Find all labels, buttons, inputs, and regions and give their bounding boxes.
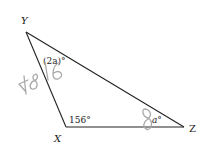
triangle-diagram: Y X Z (2a)° 156° a° — [0, 0, 210, 150]
vertex-x-label: X — [53, 133, 62, 144]
handwritten-8 — [143, 109, 152, 130]
angle-y-label: (2a)° — [43, 56, 66, 66]
vertex-z-label: Z — [189, 123, 196, 134]
handwritten-48 — [19, 74, 38, 94]
vertex-y-label: Y — [21, 15, 29, 26]
angle-z-label: a° — [152, 115, 162, 125]
side-yx — [26, 32, 66, 127]
side-yz — [26, 32, 184, 127]
angle-x-label: 156° — [69, 115, 91, 125]
